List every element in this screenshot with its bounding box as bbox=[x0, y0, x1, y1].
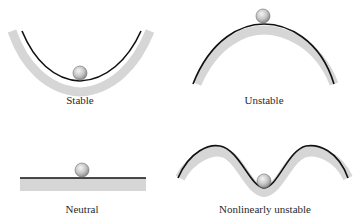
unstable-ball bbox=[256, 9, 270, 23]
stable-ball bbox=[73, 66, 87, 80]
unstable-surface-shading bbox=[197, 30, 334, 84]
stable-panel bbox=[12, 31, 150, 92]
neutral-ball bbox=[75, 163, 89, 177]
nonlinearly-unstable-panel bbox=[178, 146, 348, 192]
nonlinearly-unstable-label: Nonlinearly unstable bbox=[219, 203, 311, 215]
neutral-panel bbox=[20, 163, 146, 191]
nonlinear-ball bbox=[257, 174, 271, 188]
diagram-canvas bbox=[0, 0, 356, 221]
stable-surface-shading bbox=[12, 31, 150, 92]
unstable-panel bbox=[193, 9, 334, 84]
neutral-surface-shading bbox=[20, 178, 146, 191]
unstable-label: Unstable bbox=[244, 94, 283, 106]
stable-label: Stable bbox=[66, 94, 94, 106]
stability-diagram: Stable Unstable Neutral Nonlinearly unst… bbox=[0, 0, 356, 221]
neutral-label: Neutral bbox=[66, 203, 99, 215]
